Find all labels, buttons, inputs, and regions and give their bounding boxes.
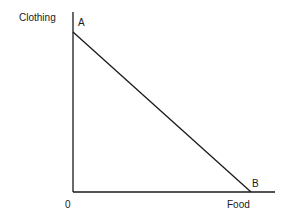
line-ab xyxy=(73,32,251,192)
point-a-label: A xyxy=(78,17,85,29)
diagram-canvas xyxy=(0,0,288,217)
x-axis-label: Food xyxy=(227,199,250,211)
diagram: Clothing A B Food 0 xyxy=(0,0,288,217)
y-axis-label: Clothing xyxy=(19,12,56,24)
point-b-label: B xyxy=(252,178,259,190)
origin-label: 0 xyxy=(65,199,71,211)
